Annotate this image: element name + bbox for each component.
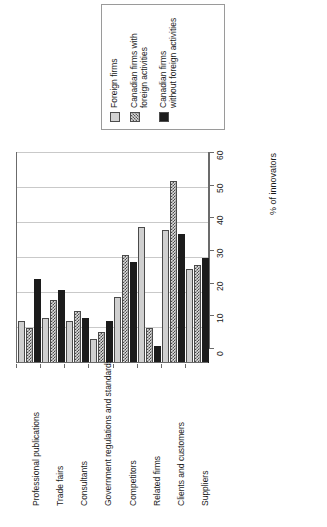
value-tick (209, 250, 214, 251)
bar-group (137, 153, 161, 363)
legend-item-canadian-with-foreign: Canadian firms with foreign activities (129, 9, 149, 122)
category-label: Suppliers (200, 471, 210, 506)
legend-item-canadian-without-foreign: Canadian firms without foreign activitie… (158, 9, 178, 122)
category-label: Consultants (79, 461, 89, 506)
legend-swatch-light-icon (110, 112, 120, 122)
category-label: Trade fairs (55, 466, 65, 506)
category-label: Related firms (152, 456, 162, 506)
value-tick-label: 60 (215, 151, 225, 160)
category-tick (113, 364, 114, 368)
value-tick-label: 10 (215, 314, 225, 323)
chart-plot-area (16, 152, 209, 363)
bar-group (41, 153, 65, 363)
category-tick (40, 364, 41, 368)
value-tick (209, 283, 214, 284)
bar (74, 311, 81, 364)
value-tick (209, 217, 214, 218)
category-tick (64, 364, 65, 368)
bar (106, 321, 113, 363)
bar (66, 321, 73, 363)
bar (194, 265, 201, 363)
legend-label: Canadian firms without foreign activitie… (158, 18, 178, 108)
bar-group (185, 153, 209, 363)
category-tick (16, 364, 17, 368)
value-axis: 0102030405060 (209, 146, 269, 368)
category-tick (88, 364, 89, 368)
bar-groups (17, 153, 208, 363)
category-tick (137, 364, 138, 368)
category-tick (185, 364, 186, 368)
bar (58, 290, 65, 364)
value-tick (209, 315, 214, 316)
legend-label: Canadian firms with foreign activities (129, 33, 149, 108)
value-tick (209, 152, 214, 153)
value-tick-label: 0 (215, 351, 225, 356)
value-tick-label: 30 (215, 249, 225, 258)
legend-swatch-dark-icon (159, 112, 169, 122)
bar-group (89, 153, 113, 363)
value-tick-label: 40 (215, 216, 225, 225)
bar (26, 328, 33, 363)
bar (170, 181, 177, 363)
bar-group (113, 153, 137, 363)
bar (146, 328, 153, 363)
category-label: Competitors (128, 460, 138, 506)
bar (42, 318, 49, 364)
bar (114, 297, 121, 364)
category-label: Government regulations and standards (103, 359, 113, 506)
category-label: Professional publications (31, 412, 41, 506)
value-tick (209, 185, 214, 186)
bar (90, 339, 97, 364)
bar (138, 227, 145, 364)
bar-group (161, 153, 185, 363)
category-tick (161, 364, 162, 368)
legend-label: Foreign firms (109, 58, 119, 108)
bar (50, 300, 57, 363)
category-label: Clients and customers (176, 422, 186, 506)
chart-legend: Foreign firms Canadian firms with foreig… (101, 4, 225, 130)
bar (82, 318, 89, 364)
bar (122, 255, 129, 364)
bar (34, 279, 41, 363)
bar (154, 346, 161, 364)
value-axis-title: % of innovators (268, 153, 278, 215)
value-tick-label: 20 (215, 281, 225, 290)
bar (130, 262, 137, 364)
plot-background (16, 152, 209, 363)
bar (186, 269, 193, 364)
bar-group (65, 153, 89, 363)
bar-group (17, 153, 41, 363)
legend-swatch-hatched-icon (130, 112, 140, 122)
value-tick-label: 50 (215, 183, 225, 192)
legend-item-foreign-firms: Foreign firms (109, 9, 120, 122)
value-tick (209, 348, 214, 349)
bar (202, 258, 209, 363)
bar (18, 321, 25, 363)
bar (162, 230, 169, 363)
bar (178, 234, 185, 364)
category-axis-labels: Professional publicationsTrade fairsCons… (16, 364, 209, 514)
